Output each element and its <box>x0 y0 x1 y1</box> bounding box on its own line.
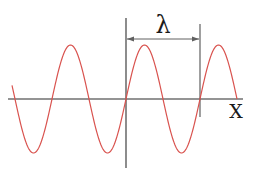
wavelength-label: λ <box>155 11 170 39</box>
arrowhead-left-icon <box>127 37 134 42</box>
x-axis-label: X <box>229 100 243 122</box>
arrowhead-right-icon <box>192 37 199 42</box>
wave-diagram: λ X <box>0 0 259 178</box>
